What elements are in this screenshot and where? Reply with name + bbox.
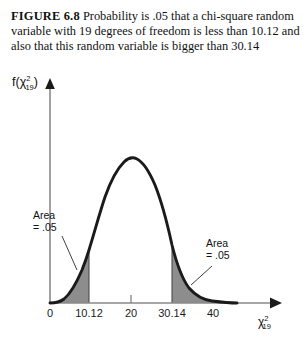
chi-square-density-curve xyxy=(50,158,237,303)
chart-plot-area: f(χ219) 0 10.12 20 30.14 40 χ219 Area = … xyxy=(0,70,308,344)
leader-line-left-annotation xyxy=(62,236,77,270)
x-axis-title-subscript: 19 xyxy=(262,322,270,331)
y-axis-title: f(χ219) xyxy=(12,74,38,92)
y-axis-title-subscript: 19 xyxy=(25,83,33,92)
x-tick-label-30-14: 30.14 xyxy=(158,307,186,319)
x-tick-label-40: 40 xyxy=(207,307,219,319)
lower-tail-area-annotation-line1: Area xyxy=(33,210,57,222)
y-axis-title-superscript: 2 xyxy=(26,74,30,83)
x-tick-label-20: 20 xyxy=(125,307,137,319)
figure-number: FIGURE 6.8 xyxy=(11,9,80,23)
x-axis-title: χ219 xyxy=(258,314,271,331)
figure-container: FIGURE 6.8 Probability is .05 that a chi… xyxy=(0,0,308,344)
leader-line-right-annotation xyxy=(191,266,212,285)
figure-caption: FIGURE 6.8 Probability is .05 that a chi… xyxy=(11,9,300,54)
y-axis-title-suffix: ) xyxy=(34,75,38,89)
x-tick-label-10-12: 10.12 xyxy=(75,307,103,319)
upper-tail-area-annotation-line2: = .05 xyxy=(206,250,230,262)
upper-tail-area-annotation-line1: Area xyxy=(206,238,230,250)
x-tick-label-0: 0 xyxy=(47,307,53,319)
chi-square-curve-svg xyxy=(0,70,308,344)
x-axis-arrowhead xyxy=(270,297,282,308)
lower-tail-area-annotation-line2: = .05 xyxy=(33,222,57,234)
upper-tail-area-annotation: Area = .05 xyxy=(206,238,230,261)
y-axis-arrowhead xyxy=(45,78,55,89)
lower-tail-area-annotation: Area = .05 xyxy=(33,210,57,233)
